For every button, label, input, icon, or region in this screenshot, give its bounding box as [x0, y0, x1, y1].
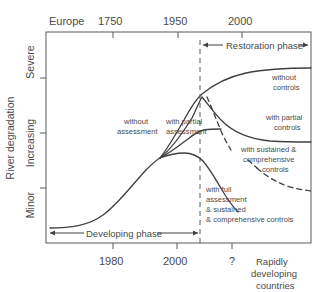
label-full-assessment-line-2: assessment: [206, 195, 247, 204]
corner-label-line-1: Rapidly: [256, 256, 288, 267]
label-without-controls-line-2: controls: [273, 83, 300, 92]
y-axis-title: River degradation: [4, 96, 16, 179]
top-tick-label-2000: 2000: [228, 15, 252, 27]
label-with-partial-assessment-line-1: with partial: [165, 117, 203, 126]
bottom-tick-label-unknown: ?: [229, 255, 235, 267]
diagram-canvas: Europe 1750 1950 2000 1980 2000 ? Rapidl…: [0, 0, 325, 292]
top-tick-label-1750: 1750: [98, 15, 122, 27]
label-with-partial-assessment: with partial assessment: [165, 117, 207, 136]
label-full-assessment-line-3: & sustained: [206, 205, 246, 214]
river-degradation-diagram: Europe 1750 1950 2000 1980 2000 ? Rapidl…: [0, 0, 325, 292]
y-tick-label-minor: Minor: [24, 191, 36, 218]
top-tick-label-1950: 1950: [163, 15, 187, 27]
label-full-assessment-line-4: & comprehensive controls: [206, 215, 294, 224]
label-without-assessment-line-1: without: [123, 117, 149, 126]
corner-label-line-3: countries: [256, 280, 295, 291]
label-without-controls-line-1: without: [271, 73, 297, 82]
developing-phase-label: Developing phase: [86, 228, 162, 239]
label-sustained-line-1: with sustained &: [240, 145, 296, 154]
label-with-partial-assessment-line-2: assessment: [166, 127, 207, 136]
corner-label-line-2: developing: [251, 268, 297, 279]
label-with-partial-controls-line-1: with partial: [265, 113, 303, 122]
left-axis-ticks: [40, 78, 46, 188]
top-axis-origin-label: Europe: [49, 15, 84, 27]
label-with-partial-controls-line-2: controls: [274, 123, 301, 132]
label-full-assessment-line-1: with full: [205, 185, 232, 194]
label-without-assessment-line-2: assessment: [117, 127, 158, 136]
restoration-phase-label: Restoration phase: [226, 40, 303, 51]
bottom-axis-ticks: [113, 243, 232, 249]
label-without-controls: without controls: [271, 73, 300, 92]
rapidly-developing-countries-label: Rapidly developing countries: [251, 256, 297, 291]
y-tick-label-severe: Severe: [24, 45, 36, 78]
label-sustained-line-2: comprehensive: [243, 155, 295, 164]
y-tick-label-increasing: Increasing: [24, 119, 36, 168]
label-sustained-line-3: controls: [262, 165, 289, 174]
bottom-tick-label-1980: 1980: [99, 255, 123, 267]
bottom-tick-label-2000: 2000: [163, 255, 187, 267]
